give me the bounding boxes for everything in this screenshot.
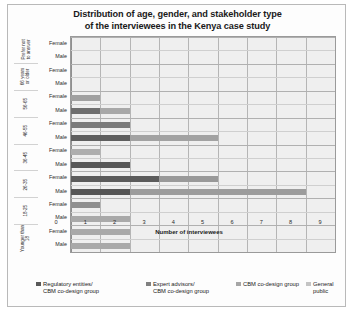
gridline-horizontal — [71, 131, 335, 132]
bar — [71, 202, 100, 208]
bar-segment — [100, 108, 129, 114]
y-axis-age-group: Younger than 18 — [14, 224, 38, 251]
y-axis-age-group-label: 46-55 — [23, 125, 28, 137]
bar-segment — [71, 162, 130, 168]
bar-segment — [71, 95, 100, 101]
x-axis-tick-labels: 0123456789 — [56, 219, 322, 229]
y-axis-gender-label: Male — [38, 184, 70, 197]
legend-item: Regulatory entities/ CBM co-design group — [36, 281, 99, 295]
bar — [71, 243, 130, 249]
chart-page: Distribution of age, gender, and stakeho… — [0, 0, 353, 317]
gridline-horizontal — [71, 77, 335, 78]
legend-item: Expert advisors/ CBM co-design group — [146, 281, 209, 295]
gridline-horizontal — [71, 37, 335, 38]
bar — [71, 108, 130, 114]
y-axis-gender-label: Female — [38, 63, 70, 76]
y-axis-gender-label: Male — [38, 103, 70, 116]
bar — [71, 189, 306, 195]
gridline-horizontal — [71, 185, 335, 186]
y-axis-age-group-label: Younger than 18 — [21, 224, 32, 251]
gridline-horizontal — [71, 212, 335, 213]
x-axis-tick-label: 1 — [84, 219, 87, 225]
bar — [71, 176, 218, 182]
gridline-horizontal — [71, 171, 335, 172]
y-axis-age-group: 26-35 — [14, 170, 38, 197]
gridline-horizontal — [71, 50, 335, 51]
y-axis-gender-label: Male — [38, 76, 70, 89]
bar-segment — [71, 176, 159, 182]
y-axis-gender-label: Female — [38, 170, 70, 183]
chart-title: Distribution of age, gender, and stakeho… — [30, 9, 325, 32]
legend-swatch — [236, 282, 241, 287]
x-axis-tick-label: 9 — [318, 219, 321, 225]
y-axis-age-group-label: 18-25 — [23, 205, 28, 217]
x-axis-tick-label: 4 — [172, 219, 175, 225]
gridline-horizontal — [71, 158, 335, 159]
y-axis-gender-label: Female — [38, 197, 70, 210]
legend-label: Expert advisors/ CBM co-design group — [153, 281, 209, 295]
legend-label: General public — [313, 281, 338, 295]
bar-segment — [71, 189, 130, 195]
x-axis-tick-label: 3 — [142, 219, 145, 225]
bar-segment — [71, 149, 100, 155]
legend-label: CBM co-design group — [243, 281, 299, 288]
bar-segment — [130, 135, 218, 141]
legend-item: General public — [306, 281, 338, 295]
bar-segment — [71, 122, 130, 128]
chart-legend: Regulatory entities/ CBM co-design group… — [18, 281, 338, 303]
x-axis-tick-label: 2 — [113, 219, 116, 225]
gridline-horizontal — [71, 239, 335, 240]
bar — [71, 122, 130, 128]
gridline-vertical — [335, 37, 336, 252]
gridline-horizontal — [71, 118, 335, 119]
y-axis-age-group: 36-45 — [14, 144, 38, 171]
gridline-horizontal — [71, 198, 335, 199]
y-axis-gender-label: Female — [38, 36, 70, 49]
bar — [71, 149, 100, 155]
y-axis-age-group: 56-65 — [14, 90, 38, 117]
y-axis-age-group: Prefer not to answer — [14, 36, 38, 63]
y-axis-age-group-label: 36-45 — [23, 152, 28, 164]
y-axis-gender-label: Female — [38, 90, 70, 103]
x-axis-tick-label: 8 — [289, 219, 292, 225]
y-axis-gender-label: Male — [38, 157, 70, 170]
y-axis-age-group: 18-25 — [14, 197, 38, 224]
bar-segment — [71, 135, 130, 141]
y-axis-gender-label: Male — [38, 130, 70, 143]
bar — [71, 162, 130, 168]
bar-segment — [71, 202, 100, 208]
x-axis-label: Number of interviewees — [56, 229, 322, 235]
legend-swatch — [146, 282, 151, 287]
bar — [71, 95, 100, 101]
bar-segment — [130, 189, 306, 195]
bar — [71, 135, 218, 141]
bar-segment — [71, 108, 100, 114]
gridline-horizontal — [71, 104, 335, 105]
y-axis-gender-label: Female — [38, 117, 70, 130]
x-axis-tick-label: 5 — [201, 219, 204, 225]
gridline-horizontal — [71, 91, 335, 92]
y-axis-gender-label: Male — [38, 238, 70, 251]
legend-item: CBM co-design group — [236, 281, 299, 288]
y-axis-age-group-label: Prefer not to answer — [21, 39, 32, 59]
y-axis-age-group-label: 26-35 — [23, 178, 28, 190]
bar-segment — [159, 176, 218, 182]
gridline-horizontal — [71, 145, 335, 146]
chart-title-line-2: of the interviewees in the Kenya case st… — [30, 21, 325, 33]
bar-segment — [71, 243, 130, 249]
chart-title-line-1: Distribution of age, gender, and stakeho… — [73, 9, 282, 19]
y-axis-age-group-column: Prefer not to answer66 years or older56-… — [14, 36, 38, 253]
y-axis-age-group: 46-55 — [14, 117, 38, 144]
legend-swatch — [36, 282, 41, 287]
x-axis-tick-label: 7 — [260, 219, 263, 225]
y-axis-age-group: 66 years or older — [14, 63, 38, 90]
legend-label: Regulatory entities/ CBM co-design group — [43, 281, 99, 295]
y-axis-gender-label: Male — [38, 49, 70, 62]
gridline-horizontal — [71, 64, 335, 65]
x-axis-tick-label: 6 — [230, 219, 233, 225]
y-axis-gender-label: Female — [38, 144, 70, 157]
x-axis-tick-label: 0 — [54, 219, 57, 225]
y-axis-age-group-label: 56-65 — [23, 98, 28, 110]
legend-swatch — [306, 282, 311, 287]
y-axis-age-group-label: 66 years or older — [21, 68, 32, 86]
